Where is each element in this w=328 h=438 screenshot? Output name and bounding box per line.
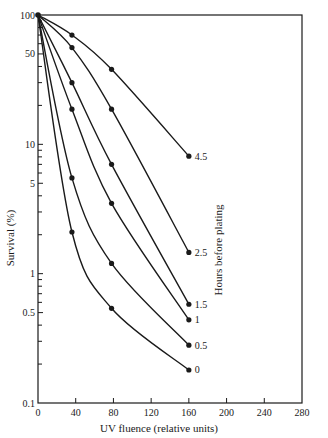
survival-chart: 0.10.5151050100 04080120160200240280 4.5… — [0, 0, 328, 438]
data-point — [109, 67, 114, 72]
legend-title: Hours before plating — [212, 204, 224, 296]
data-point — [109, 107, 114, 112]
x-tick-label: 80 — [108, 407, 118, 418]
data-point — [109, 162, 114, 167]
x-axis-ticks: 04080120160200240280 — [36, 398, 310, 418]
series-1-5-hours: 1.5 — [38, 15, 207, 310]
data-point — [109, 306, 114, 311]
data-point — [109, 201, 114, 206]
data-point — [186, 250, 191, 255]
series-line — [38, 15, 189, 345]
plot-border — [38, 15, 302, 403]
x-axis-title: UV fluence (relative units) — [100, 422, 218, 435]
series-label: 2.5 — [195, 247, 208, 258]
y-tick-label: 50 — [25, 48, 35, 59]
data-point — [69, 32, 74, 37]
x-tick-label: 200 — [219, 407, 234, 418]
series-line — [38, 15, 189, 156]
y-axis-title: Survival (%) — [4, 209, 17, 266]
data-point — [186, 317, 191, 322]
x-tick-label: 280 — [295, 407, 310, 418]
x-tick-label: 40 — [71, 407, 81, 418]
series-label: 4.5 — [195, 151, 208, 162]
series-1-hours: 1 — [38, 15, 200, 325]
series-label: 0 — [195, 364, 200, 375]
data-point — [69, 80, 74, 85]
origin-point — [35, 12, 41, 18]
y-tick-label: 0.1 — [23, 398, 36, 409]
data-point — [186, 302, 191, 307]
data-point — [69, 45, 74, 50]
data-point — [69, 229, 74, 234]
series-curves: 4.52.51.510.50 — [35, 12, 207, 375]
y-tick-label: 10 — [25, 139, 35, 150]
data-point — [186, 367, 191, 372]
y-axis-ticks: 0.10.5151050100 — [20, 10, 43, 409]
x-tick-label: 240 — [257, 407, 272, 418]
data-point — [109, 261, 114, 266]
data-point — [186, 154, 191, 159]
series-label: 1 — [195, 314, 200, 325]
data-point — [186, 343, 191, 348]
x-tick-label: 160 — [181, 407, 196, 418]
data-point — [69, 175, 74, 180]
series-line — [38, 15, 189, 304]
y-tick-label: 0.5 — [23, 307, 36, 318]
x-tick-label: 0 — [36, 407, 41, 418]
series-label: 1.5 — [195, 299, 208, 310]
plot-frame — [38, 15, 302, 403]
series-0-hours: 0 — [38, 15, 200, 375]
series-label: 0.5 — [195, 340, 208, 351]
y-tick-label: 100 — [20, 10, 35, 21]
data-point — [69, 107, 74, 112]
x-tick-label: 120 — [144, 407, 159, 418]
y-tick-label: 1 — [30, 268, 35, 279]
y-tick-label: 5 — [30, 178, 35, 189]
